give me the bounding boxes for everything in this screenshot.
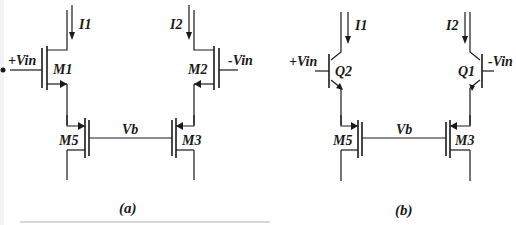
label-vb-a: Vb — [122, 122, 138, 137]
caption-a: (a) — [119, 200, 137, 217]
label-i1-a: I1 — [78, 17, 91, 32]
current-arrow-i2-a — [186, 5, 192, 40]
label-vin-plus-b: +Vin — [289, 54, 317, 69]
label-m1: M1 — [52, 62, 72, 77]
label-i2-a: I2 — [169, 17, 182, 32]
label-vin-minus-b: -Vin — [488, 54, 513, 69]
label-m2: M2 — [187, 62, 207, 77]
label-i1-b: I1 — [354, 18, 367, 33]
label-q2: Q2 — [335, 64, 352, 79]
transistor-m5-b — [341, 115, 362, 181]
label-vin-minus-a: -Vin — [228, 53, 253, 68]
label-m3-a: M3 — [181, 133, 201, 148]
current-arrow-i1-b — [345, 12, 351, 44]
cropped-caption-line — [20, 221, 270, 223]
label-q1: Q1 — [458, 64, 475, 79]
label-m5-a: M5 — [58, 133, 78, 148]
current-arrow-i1-a — [69, 5, 75, 40]
label-m5-b: M5 — [332, 133, 352, 148]
panel-a: I1 +Vin M1 I2 — [1, 0, 254, 217]
current-arrow-i2-b — [462, 12, 468, 44]
label-vb-b: Vb — [396, 122, 412, 137]
circuit-figure: I1 +Vin M1 I2 — [0, 0, 516, 225]
label-i2-b: I2 — [445, 18, 458, 33]
caption-b: (b) — [395, 202, 413, 219]
input-node-left-a — [1, 68, 6, 73]
label-vin-plus-a: +Vin — [8, 53, 36, 68]
label-m3-b: M3 — [454, 133, 474, 148]
panel-b: I1 +Vin Q2 I2 Q1 -Vin — [289, 12, 513, 219]
transistor-m3-b — [446, 115, 470, 181]
